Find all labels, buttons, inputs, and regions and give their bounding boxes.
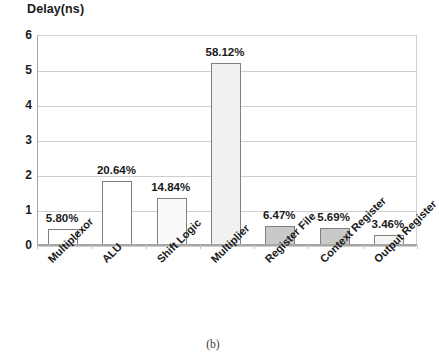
bar-alu[interactable] (102, 181, 132, 246)
y-axis-tick-label: 0 (4, 238, 32, 252)
x-axis-tick (417, 245, 418, 249)
x-axis-tick (91, 245, 92, 249)
bar-value-label: 14.84% (151, 181, 190, 193)
y-axis-tick-label: 2 (4, 168, 32, 182)
x-axis-tick (363, 245, 364, 249)
y-axis-tick-label: 4 (4, 98, 32, 112)
x-axis-tick (254, 245, 255, 249)
figure-caption: (b) (0, 338, 426, 350)
bar-value-label: 20.64% (97, 164, 136, 176)
y-axis-tick-label: 5 (4, 63, 32, 77)
y-axis-tick-label: 6 (4, 28, 32, 42)
bar-multiplier[interactable] (211, 63, 241, 246)
bar-value-label: 58.12% (205, 46, 244, 58)
bar-value-label: 5.80% (46, 212, 79, 224)
y-axis-tick-label: 3 (4, 133, 32, 147)
y-axis-tick-labels: 0123456 (0, 35, 32, 245)
y-axis-tick-label: 1 (4, 203, 32, 217)
x-axis-tick (146, 245, 147, 249)
chart-title: Delay(ns) (27, 2, 84, 16)
x-axis-tick (37, 245, 38, 249)
bar-value-label: 5.69% (317, 211, 350, 223)
x-axis-tick (200, 245, 201, 249)
bar-value-label: 6.47% (263, 209, 296, 221)
x-axis-tick (308, 245, 309, 249)
